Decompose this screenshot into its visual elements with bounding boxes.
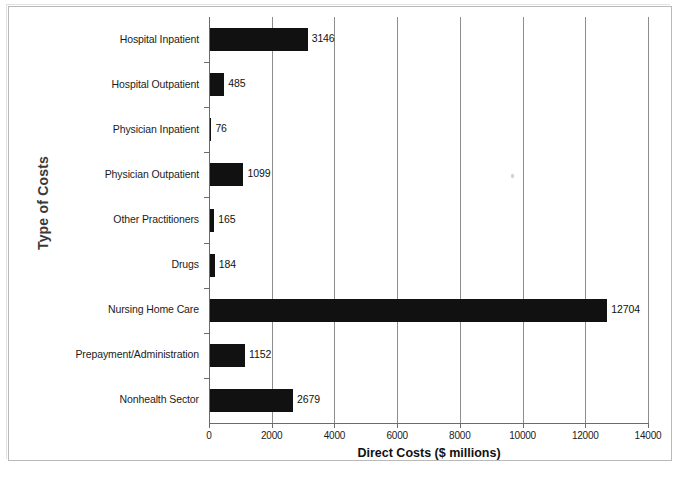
y-axis-tick <box>204 243 209 244</box>
x-axis-line <box>209 423 649 424</box>
x-axis-tick-label: 6000 <box>386 430 407 441</box>
x-axis-tick <box>397 423 398 428</box>
x-axis-tick-label: 2000 <box>261 430 282 441</box>
category-label: Hospital Outpatient <box>0 78 199 90</box>
x-axis-tick-label: 8000 <box>449 430 470 441</box>
gridline <box>648 17 649 423</box>
x-axis-tick <box>460 423 461 428</box>
bar-value-label: 1152 <box>249 348 271 360</box>
bar-row: 76 <box>209 118 648 141</box>
bar-row: 184 <box>209 254 648 277</box>
y-axis-tick <box>204 197 209 198</box>
y-axis-tick <box>204 378 209 379</box>
x-axis-tick-label: 12000 <box>572 430 599 441</box>
x-axis-tick <box>585 423 586 428</box>
bar-row: 2679 <box>209 389 648 412</box>
bar <box>209 73 224 96</box>
bar-value-label: 2679 <box>297 393 320 405</box>
y-axis-tick <box>204 333 209 334</box>
category-label: Physician Outpatient <box>0 168 199 180</box>
category-label: Hospital Inpatient <box>0 33 199 45</box>
bar <box>209 163 243 186</box>
x-axis-tick-label: 10000 <box>509 430 536 441</box>
scan-artifact-speck <box>511 174 514 178</box>
bar <box>209 28 308 51</box>
bar-value-label: 12704 <box>611 303 640 315</box>
y-axis-tick <box>204 152 209 153</box>
bar-value-label: 1099 <box>247 167 270 179</box>
category-label: Nursing Home Care <box>0 303 199 315</box>
bar <box>209 389 293 412</box>
bar-value-label: 184 <box>219 258 236 270</box>
category-label: Physician Inpatient <box>0 123 199 135</box>
bar-value-label: 76 <box>215 122 226 134</box>
y-axis-line <box>209 17 210 424</box>
bar-row: 165 <box>209 209 648 232</box>
bar-row: 1099 <box>209 163 648 186</box>
x-axis-title: Direct Costs ($ millions) <box>209 446 649 460</box>
y-axis-title: Type of Costs <box>35 128 51 278</box>
bar-row: 3146 <box>209 28 648 51</box>
bar-row: 12704 <box>209 299 648 322</box>
bar <box>209 344 245 367</box>
bar-chart: Type of Costs Hospital InpatientHospital… <box>0 0 683 480</box>
category-label: Drugs <box>0 258 199 270</box>
category-label: Other Practitioners <box>0 213 199 225</box>
y-axis-tick <box>204 107 209 108</box>
x-axis-tick-label: 14000 <box>635 430 662 441</box>
category-label: Prepayment/Administration <box>0 348 199 360</box>
bar <box>209 299 607 322</box>
x-axis-tick <box>523 423 524 428</box>
y-axis-tick <box>204 288 209 289</box>
bar-row: 485 <box>209 73 648 96</box>
y-axis-tick <box>204 62 209 63</box>
x-axis-tick-label: 4000 <box>324 430 345 441</box>
x-axis-tick-label: 0 <box>206 430 211 441</box>
category-label: Nonhealth Sector <box>0 393 199 405</box>
x-axis-tick <box>648 423 649 428</box>
x-axis-tick <box>334 423 335 428</box>
bar-value-label: 3146 <box>312 32 335 44</box>
bar-value-label: 165 <box>218 213 235 225</box>
bar-row: 1152 <box>209 344 648 367</box>
bar-value-label: 485 <box>228 77 245 89</box>
x-axis-tick <box>272 423 273 428</box>
plot-area: 31464857610991651841270411522679 <box>209 17 648 423</box>
x-axis-tick <box>209 423 210 428</box>
